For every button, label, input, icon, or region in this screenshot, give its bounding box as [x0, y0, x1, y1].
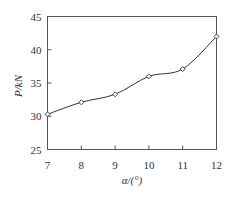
y-axis: 2530354045 [31, 11, 52, 156]
y-tick-label: 40 [31, 44, 43, 56]
y-tick-label: 35 [31, 77, 43, 89]
x-tick-label: 11 [177, 159, 188, 171]
data-markers [45, 34, 219, 117]
plot-frame [48, 17, 217, 150]
x-tick-label: 9 [112, 159, 118, 171]
x-tick-label: 7 [45, 159, 51, 171]
data-point [146, 74, 151, 79]
y-tick-label: 45 [31, 11, 43, 23]
y-tick-label: 25 [31, 144, 43, 156]
y-tick-label: 30 [31, 110, 43, 122]
data-line [48, 36, 217, 114]
y-axis-label: P/kN [12, 74, 24, 98]
data-point [180, 67, 185, 72]
x-tick-label: 12 [211, 159, 222, 171]
x-tick-label: 8 [79, 159, 85, 171]
x-axis-label: α/(°) [122, 174, 143, 187]
data-point [113, 92, 118, 97]
line-chart: 2530354045 789101112 P/kN α/(°) [0, 0, 235, 202]
x-tick-label: 10 [143, 159, 155, 171]
data-point [79, 100, 84, 105]
